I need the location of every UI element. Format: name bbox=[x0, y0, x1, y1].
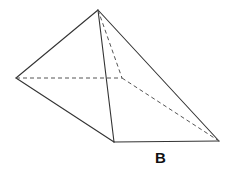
figure-label: B bbox=[155, 150, 166, 165]
edge-apex-left bbox=[16, 10, 98, 78]
edge-front-right bbox=[114, 141, 219, 142]
hidden-edge-back-right bbox=[122, 78, 219, 141]
edge-apex-right bbox=[98, 10, 219, 141]
pyramid-diagram: B bbox=[0, 0, 230, 176]
edge-apex-front bbox=[98, 10, 114, 142]
pyramid-drawing bbox=[0, 0, 230, 176]
edge-left-front bbox=[16, 78, 114, 142]
